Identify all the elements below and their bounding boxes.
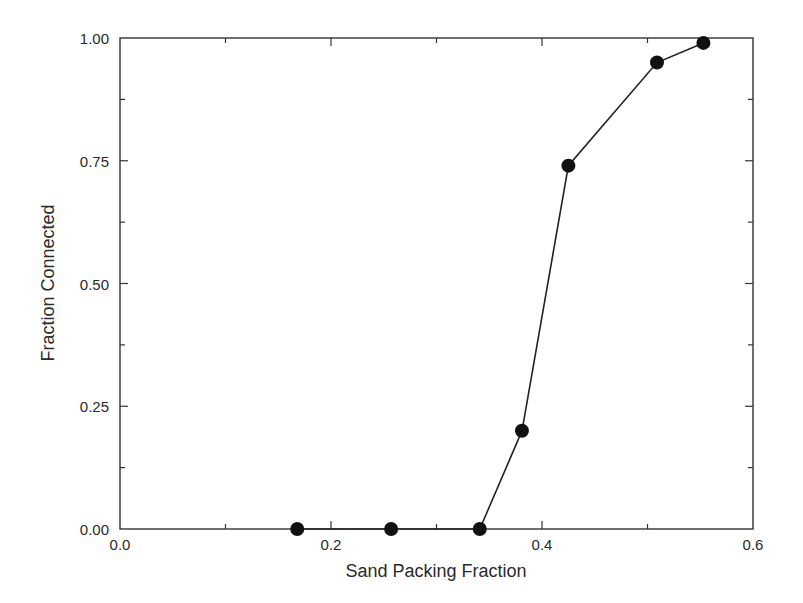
y-tick-label: 0.00 <box>80 521 109 538</box>
x-tick-labels: 0.00.20.40.6 <box>110 536 764 553</box>
y-tick-label: 0.25 <box>80 398 109 415</box>
y-tick-labels: 0.000.250.500.751.00 <box>80 30 109 538</box>
series-line <box>297 43 703 529</box>
line-chart: 0.00.20.40.6 0.000.250.500.751.00 Sand P… <box>0 0 803 603</box>
y-tick-label: 1.00 <box>80 30 109 47</box>
plot-border <box>120 38 753 529</box>
data-point-marker <box>384 522 398 536</box>
x-tick-label: 0.6 <box>743 536 764 553</box>
y-tick-label: 0.75 <box>80 153 109 170</box>
data-point-marker <box>650 56 664 70</box>
plot-frame <box>120 38 753 529</box>
y-axis-label: Fraction Connected <box>38 204 58 361</box>
data-point-marker <box>473 522 487 536</box>
data-point-marker <box>290 522 304 536</box>
x-axis-label: Sand Packing Fraction <box>345 561 526 581</box>
x-tick-label: 0.0 <box>110 536 131 553</box>
data-series <box>290 36 710 536</box>
y-tick-label: 0.50 <box>80 276 109 293</box>
x-tick-label: 0.2 <box>321 536 342 553</box>
data-point-marker <box>696 36 710 50</box>
axis-ticks <box>120 38 753 529</box>
x-tick-label: 0.4 <box>532 536 553 553</box>
data-point-marker <box>561 159 575 173</box>
data-point-marker <box>515 424 529 438</box>
